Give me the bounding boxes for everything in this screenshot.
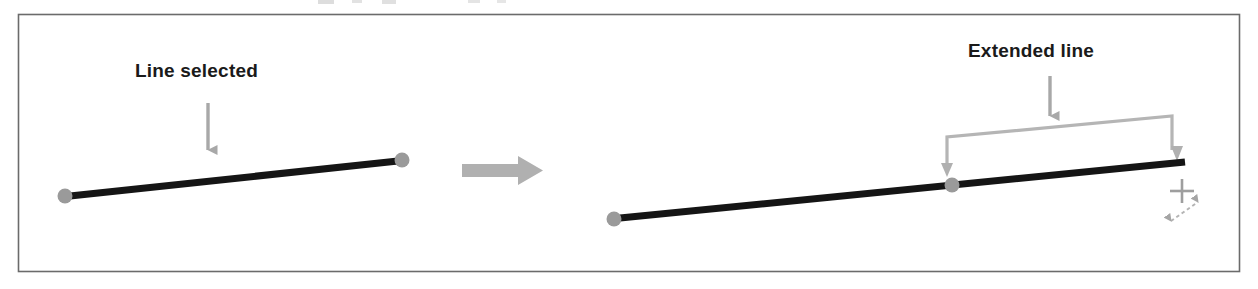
bracket-left-arrowhead — [941, 163, 953, 177]
before-state-group — [58, 103, 410, 204]
top-edge-artifacts — [318, 0, 506, 4]
extended-line[interactable] — [620, 162, 1185, 218]
selected-line[interactable] — [70, 161, 398, 196]
after-state-group — [607, 76, 1199, 227]
figure-root: Line selected Extended line — [0, 0, 1258, 289]
grip-endpoint-left[interactable] — [58, 189, 73, 204]
diagonal-resize-arrow-icon — [1171, 202, 1198, 221]
grip-original-endpoint[interactable] — [945, 178, 960, 193]
bracket-right-arrowhead — [1171, 146, 1183, 161]
transition-arrow — [462, 156, 543, 185]
grip-endpoint-left-after[interactable] — [607, 212, 622, 227]
resize-crosshair-cursor — [1170, 179, 1198, 221]
grip-endpoint-right[interactable] — [395, 153, 410, 168]
line-selected-label: Line selected — [135, 61, 258, 80]
extended-line-label: Extended line — [968, 41, 1094, 60]
